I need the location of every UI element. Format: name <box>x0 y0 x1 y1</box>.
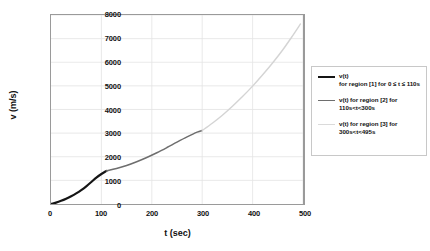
x-tick-label: 100 <box>81 209 121 218</box>
y-tick-label: 6000 <box>61 57 121 66</box>
legend-entry-head: v(t) <box>339 72 423 80</box>
y-axis-title: v (m/s) <box>8 70 18 140</box>
x-tick-label: 300 <box>183 209 223 218</box>
legend-line-swatch <box>318 100 335 101</box>
legend-box: v(t)for region [1] for 0 ≤ t ≤ 110sv(t) … <box>311 66 427 156</box>
legend-entry-label: v(t) for region [3] for 300s<t<495s <box>339 120 423 137</box>
legend-entry-body: for region [1] for 0 ≤ t ≤ 110s <box>339 80 420 87</box>
y-tick-label: 8000 <box>61 10 121 19</box>
y-tick-label: 7000 <box>61 33 121 42</box>
y-tick-label: 3000 <box>61 129 121 138</box>
x-tick-label: 0 <box>30 209 70 218</box>
legend-entry-label: v(t)for region [1] for 0 ≤ t ≤ 110s <box>339 72 423 89</box>
y-tick-label: 2000 <box>61 153 121 162</box>
legend-entry-region-3: v(t) for region [3] for 300s<t<495s <box>316 120 423 138</box>
y-tick-label: 5000 <box>61 81 121 90</box>
y-tick-label: 4000 <box>61 105 121 114</box>
legend-line-swatch <box>318 76 335 78</box>
curve-region-3 <box>202 24 300 131</box>
legend-entry-label: v(t) for region [2] for 110s<t<300s <box>339 96 423 113</box>
legend-line-swatch <box>318 124 335 125</box>
x-tick-label: 400 <box>234 209 274 218</box>
legend-entry-region-2: v(t) for region [2] for 110s<t<300s <box>316 96 423 114</box>
x-tick-label: 500 <box>285 209 325 218</box>
legend-entry-region-1: v(t)for region [1] for 0 ≤ t ≤ 110s <box>316 72 423 90</box>
y-tick-label: 1000 <box>61 177 121 186</box>
figure-canvas: 800070006000500040003000200010000 010020… <box>0 0 430 251</box>
x-axis-title: t (sec) <box>50 228 305 238</box>
x-tick-label: 200 <box>132 209 172 218</box>
